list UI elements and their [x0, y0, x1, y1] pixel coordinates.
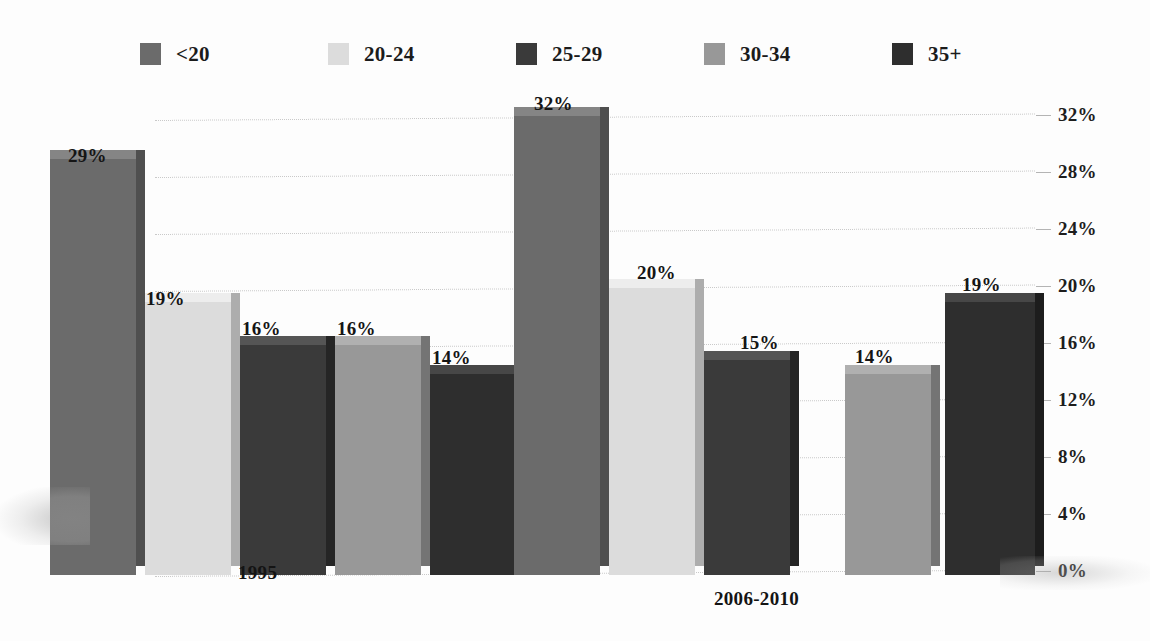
category-label-2006-2010: 2006-2010 — [714, 588, 799, 610]
bar-value-2006-2010-25-29: 15% — [740, 332, 779, 354]
bar-1995-under20[interactable] — [50, 159, 136, 575]
chart-page: <20 20-24 25-29 30-34 35+ — [0, 0, 1150, 641]
bar-1995-25-29[interactable] — [240, 345, 326, 575]
axis-tick-32 — [1036, 115, 1051, 116]
bar-value-2006-2010-35plus: 19% — [962, 274, 1001, 296]
bar-face — [609, 288, 695, 575]
bar-value-2006-2010-30-34: 14% — [855, 346, 894, 368]
axis-label-24: 24% — [1058, 218, 1097, 240]
bar-1995-30-34[interactable] — [335, 345, 421, 575]
bar-face — [945, 302, 1035, 575]
bar-side-face — [600, 107, 609, 566]
bar-side-face — [326, 336, 335, 566]
bar-side-face — [421, 336, 430, 566]
bar-side-face — [1035, 293, 1044, 566]
axis-label-0: 0% — [1058, 560, 1087, 582]
bar-value-1995-under20: 29% — [68, 145, 107, 167]
axis-label-4: 4% — [1058, 503, 1087, 525]
bar-value-1995-20-24: 19% — [146, 288, 185, 310]
bar-face — [335, 345, 421, 575]
axis-label-8: 8% — [1058, 446, 1087, 468]
bar-2006-2010-35plus[interactable] — [945, 302, 1035, 575]
axis-label-12: 12% — [1058, 389, 1097, 411]
plot-area: 32% 28% 24% 20% 16% 12% 8% 4% 0% 29% 19% — [0, 0, 1150, 641]
bar-value-1995-30-34: 16% — [337, 318, 376, 340]
bar-side-face — [931, 365, 940, 566]
bar-face — [514, 116, 600, 575]
axis-label-20: 20% — [1058, 275, 1097, 297]
bar-value-2006-2010-20-24: 20% — [637, 262, 676, 284]
bar-1995-20-24[interactable] — [145, 302, 231, 575]
bar-2006-2010-30-34[interactable] — [845, 374, 931, 575]
axis-tick-28 — [1036, 172, 1051, 173]
bar-face — [50, 159, 136, 575]
bar-face — [845, 374, 931, 575]
bar-2006-2010-20-24[interactable] — [609, 288, 695, 575]
bar-value-1995-25-29: 16% — [242, 318, 281, 340]
bar-value-2006-2010-under20: 32% — [534, 93, 573, 115]
category-label-1995: 1995 — [238, 562, 277, 584]
bar-face — [430, 374, 516, 575]
bar-face — [240, 345, 326, 575]
axis-label-32: 32% — [1058, 104, 1097, 126]
bar-side-face — [231, 293, 240, 566]
axis-tick-0 — [1036, 571, 1051, 572]
bar-side-face — [136, 150, 145, 566]
bar-side-face — [790, 351, 799, 566]
bar-side-face — [695, 279, 704, 566]
bar-2006-2010-under20[interactable] — [514, 116, 600, 575]
axis-label-16: 16% — [1058, 332, 1097, 354]
axis-tick-20 — [1036, 286, 1051, 287]
axis-label-28: 28% — [1058, 161, 1097, 183]
axis-tick-24 — [1036, 229, 1051, 230]
bar-1995-35plus[interactable] — [430, 374, 516, 575]
bar-value-1995-35plus: 14% — [432, 347, 471, 369]
bar-face — [704, 360, 790, 575]
bar-2006-2010-25-29[interactable] — [704, 360, 790, 575]
bar-face — [145, 302, 231, 575]
